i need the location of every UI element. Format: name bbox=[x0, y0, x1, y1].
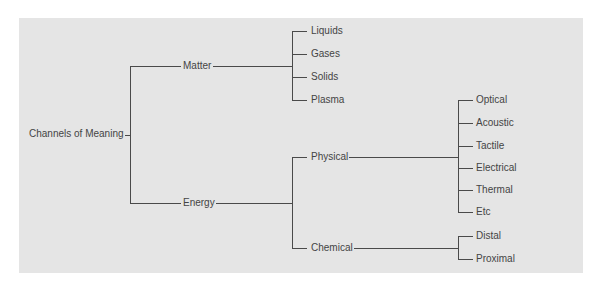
node-matter: Matter bbox=[182, 60, 212, 72]
node-channels-of-meaning: Channels of Meaning bbox=[28, 128, 125, 140]
node-optical: Optical bbox=[475, 94, 508, 106]
node-energy: Energy bbox=[182, 197, 216, 209]
node-thermal: Thermal bbox=[475, 184, 514, 196]
node-etc: Etc bbox=[475, 206, 491, 218]
node-proximal: Proximal bbox=[475, 253, 516, 265]
node-distal: Distal bbox=[475, 230, 502, 242]
node-liquids: Liquids bbox=[310, 25, 344, 37]
node-acoustic: Acoustic bbox=[475, 117, 515, 129]
node-physical: Physical bbox=[310, 151, 349, 163]
node-tactile: Tactile bbox=[475, 140, 505, 152]
node-chemical: Chemical bbox=[310, 242, 354, 254]
node-solids: Solids bbox=[310, 71, 339, 83]
tree-connectors bbox=[0, 0, 602, 281]
node-plasma: Plasma bbox=[310, 94, 345, 106]
node-electrical: Electrical bbox=[475, 162, 518, 174]
node-gases: Gases bbox=[310, 48, 341, 60]
